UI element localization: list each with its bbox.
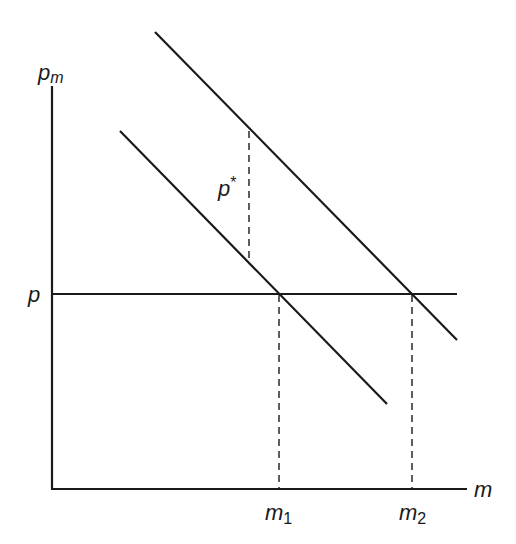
p-star-label: p* (217, 174, 236, 201)
import-demand-diagram: pm p m p* m1 m2 (0, 0, 516, 544)
m2-label: m2 (399, 500, 426, 527)
price-label: p (27, 282, 40, 307)
m1-label: m1 (265, 500, 292, 527)
y-axis-label: pm (37, 60, 64, 86)
lower-demand-curve (120, 131, 387, 404)
x-axis-label: m (474, 477, 492, 502)
